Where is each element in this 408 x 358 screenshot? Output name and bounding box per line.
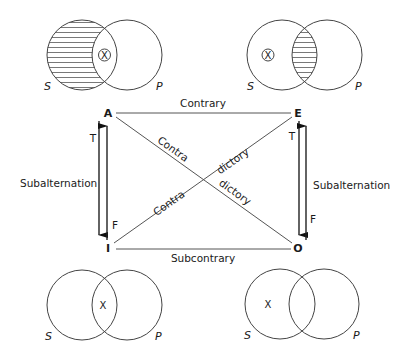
truth-label-left-t: T [89,132,97,144]
venn-diagram-i: X S P [45,270,162,343]
truth-label-right-t: T [288,130,296,142]
contradictory-b-part2: dictory [214,145,251,176]
venn-diagram-o: X S P [244,269,360,342]
subalternation-label-right: Subalternation [313,179,390,191]
subject-label: S [44,80,51,93]
predicate-label: P [355,80,362,93]
square-of-opposition-diagram: X S P X S P A E I O Contrary Subcontrary… [0,0,408,358]
truth-label-right-f: F [310,213,316,225]
contradictory-b-part1: Contra [151,188,187,218]
x-mark: X [265,50,272,61]
x-mark: X [100,300,107,311]
subalternation-label-left: Subalternation [20,177,97,189]
x-mark: X [265,299,272,310]
corner-e: E [294,107,302,120]
predicate-label: P [353,329,360,342]
corner-i: I [106,242,110,255]
subject-circle [47,270,117,340]
corner-o: O [293,242,302,255]
x-mark: X [101,50,108,61]
venn-diagram-a: X S P [40,15,163,100]
square-of-opposition: A E I O Contrary Subcontrary Contra dict… [20,97,390,264]
venn-diagram-e: X S P [247,15,362,100]
truth-label-left-f: F [112,219,118,231]
subject-label: S [244,329,251,342]
subject-label: S [45,330,52,343]
predicate-label: P [155,330,162,343]
subcontrary-label: Subcontrary [171,252,235,264]
subject-circle [245,269,315,339]
predicate-circle [289,269,359,339]
subject-label: S [247,80,254,93]
predicate-label: P [156,80,163,93]
corner-a: A [104,107,113,120]
contrary-label: Contrary [180,97,226,109]
